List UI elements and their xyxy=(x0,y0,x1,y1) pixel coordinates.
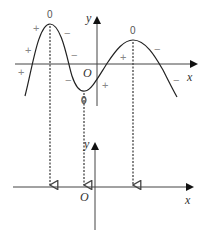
sign-marker: − xyxy=(65,74,71,86)
sign-marker: − xyxy=(64,27,70,39)
upper-x-label: x xyxy=(186,70,193,84)
sign-marker: + xyxy=(18,66,24,78)
lower-graph: y O x xyxy=(13,137,192,230)
sign-marker: + xyxy=(33,22,39,34)
lower-origin-label: O xyxy=(80,190,89,204)
sign-marker: + xyxy=(25,44,31,56)
extremum-label-max-left: 0 xyxy=(47,9,53,20)
upper-y-label: y xyxy=(85,11,92,25)
sign-marker: − xyxy=(154,43,160,55)
sign-marker: + xyxy=(120,51,126,63)
sign-marker: − xyxy=(173,74,179,86)
upper-graph: y x O 0 0 0 + + + − − − + + − − xyxy=(15,9,196,106)
sign-chart-diagram: y x O 0 0 0 + + + − − − + + − − y O x xyxy=(0,0,210,245)
lower-y-label: y xyxy=(83,137,90,151)
lower-x-label: x xyxy=(184,193,191,207)
upper-origin-label: O xyxy=(83,66,92,80)
projection-arrows xyxy=(50,26,133,185)
sign-marker: + xyxy=(102,79,108,91)
sign-marker: − xyxy=(71,49,77,61)
extremum-label-max-right: 0 xyxy=(130,25,136,36)
function-curve xyxy=(25,24,177,97)
